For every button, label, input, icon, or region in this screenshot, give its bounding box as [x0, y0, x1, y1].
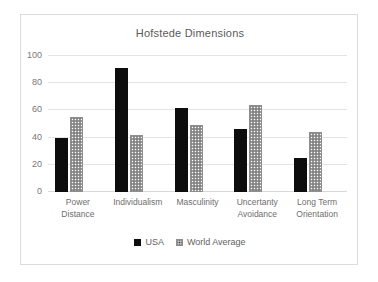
y-axis-tick-label: 0: [37, 186, 42, 196]
bar-group: [287, 56, 347, 192]
category-label: Long TermOrientation: [287, 196, 347, 220]
bar-world-average[interactable]: [70, 117, 83, 192]
bar-usa[interactable]: [115, 68, 128, 192]
legend-swatch-icon: [176, 239, 183, 246]
bar-group: [227, 56, 287, 192]
bar-usa[interactable]: [175, 108, 188, 192]
category-label-line: Power: [48, 196, 108, 208]
legend-swatch-icon: [134, 239, 141, 246]
category-label: UncertantyAvoidance: [227, 196, 287, 220]
legend-label: USA: [145, 237, 164, 247]
legend-label: World Average: [187, 237, 246, 247]
bar-group: [48, 56, 108, 192]
legend-item-world-average[interactable]: World Average: [176, 237, 246, 247]
chart-title: Hofstede Dimensions: [21, 27, 359, 39]
legend-item-usa[interactable]: USA: [134, 237, 164, 247]
category-label-line: Avoidance: [227, 208, 287, 220]
y-axis-tick-label: 60: [32, 104, 42, 114]
y-axis-tick-label: 20: [32, 159, 42, 169]
y-axis-tick-label: 80: [32, 77, 42, 87]
chart-legend: USAWorld Average: [21, 237, 359, 247]
y-axis-tick-label: 100: [27, 50, 42, 60]
category-label-line: Masculinity: [168, 196, 228, 208]
x-axis-category-labels: PowerDistanceIndividualismMasculinityUnc…: [48, 196, 347, 232]
bar-world-average[interactable]: [249, 105, 262, 192]
category-label-line: Individualism: [108, 196, 168, 208]
category-label-line: Long Term: [287, 196, 347, 208]
plot-area: 020406080100: [48, 56, 347, 192]
bar-usa[interactable]: [55, 138, 68, 192]
category-label: Masculinity: [168, 196, 228, 208]
bar-group: [108, 56, 168, 192]
chart-frame: Hofstede Dimensions 020406080100 PowerDi…: [20, 14, 358, 265]
bar-group: [168, 56, 228, 192]
category-label: Individualism: [108, 196, 168, 208]
bar-world-average[interactable]: [190, 125, 203, 192]
bar-usa[interactable]: [294, 158, 307, 192]
bar-usa[interactable]: [234, 129, 247, 192]
category-label-line: Distance: [48, 208, 108, 220]
category-label-line: Uncertanty: [227, 196, 287, 208]
category-label-line: Orientation: [287, 208, 347, 220]
bar-world-average[interactable]: [309, 132, 322, 192]
category-label: PowerDistance: [48, 196, 108, 220]
bar-world-average[interactable]: [130, 135, 143, 192]
y-axis-tick-label: 40: [32, 132, 42, 142]
